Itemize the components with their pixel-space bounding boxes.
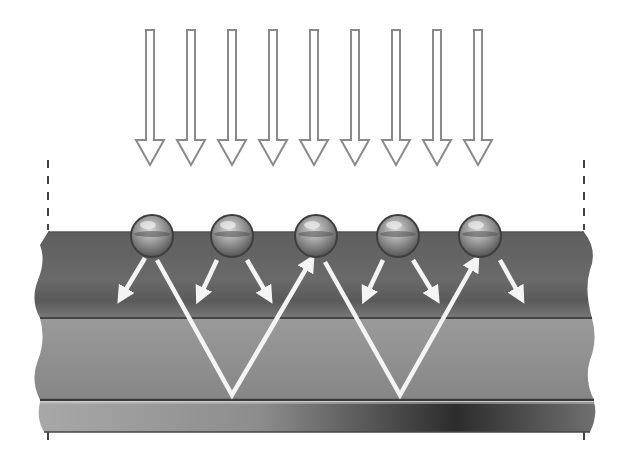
sphere-band — [462, 231, 498, 237]
sphere-highlight — [304, 221, 320, 229]
down-arrow-icon — [341, 30, 369, 165]
down-arrow-icon — [464, 30, 492, 165]
sphere-band — [380, 231, 416, 237]
nanoparticle — [459, 215, 501, 257]
nanoparticle — [211, 215, 253, 257]
middle-layer — [34, 318, 594, 400]
down-arrow-icon — [136, 30, 164, 165]
sphere-highlight — [220, 221, 236, 229]
down-arrow-icon — [218, 30, 246, 165]
waveguide-scattering-diagram — [0, 0, 627, 460]
sphere-highlight — [140, 221, 156, 229]
sphere-band — [134, 231, 170, 237]
layer-stack — [34, 232, 595, 432]
down-arrow-icon — [423, 30, 451, 165]
down-arrow-icon — [382, 30, 410, 165]
sphere-highlight — [468, 221, 484, 229]
sphere-band — [214, 231, 250, 237]
down-arrow-icon — [259, 30, 287, 165]
sphere-band — [298, 231, 334, 237]
sphere-highlight — [386, 221, 402, 229]
nanoparticle — [131, 215, 173, 257]
down-arrow-icon — [300, 30, 328, 165]
substrate-strip — [39, 402, 596, 432]
down-arrow-icon — [177, 30, 205, 165]
nanoparticle — [295, 215, 337, 257]
incident-light-arrows — [136, 30, 492, 165]
nanoparticle — [377, 215, 419, 257]
